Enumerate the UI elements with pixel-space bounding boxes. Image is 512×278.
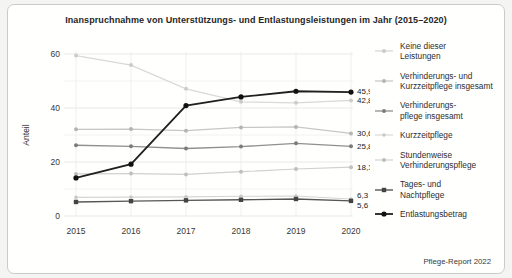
legend-item: Kurzzeitpflege <box>374 130 502 140</box>
legend-item: Tages- undNachtpflege <box>374 179 502 200</box>
data-point <box>294 101 298 105</box>
data-point <box>239 194 243 198</box>
data-point <box>128 162 133 167</box>
data-point <box>129 195 133 199</box>
legend-item: Verhinderungs-pflege insgesamt <box>374 100 502 121</box>
series-end-value-label: 18,1 <box>357 163 370 172</box>
data-point <box>184 198 188 202</box>
series-end-value-label: 42,8 <box>357 96 370 105</box>
data-point <box>183 103 188 108</box>
data-point <box>349 144 353 148</box>
legend-marker-icon <box>374 46 394 56</box>
y-tick-label: 20 <box>51 157 61 167</box>
data-point <box>184 129 188 133</box>
series-end-value-label: 30,6 <box>357 129 370 138</box>
x-tick-label: 2019 <box>287 226 306 236</box>
series-end-value-label: 25,8 <box>357 142 370 151</box>
legend-label: StundenweiseVerhinderungspflege <box>400 150 476 171</box>
chart-legend: Keine dieserLeistungenVerhinderungs- und… <box>374 41 502 219</box>
y-tick-label: 60 <box>51 49 61 59</box>
data-point <box>184 87 188 91</box>
data-point <box>294 125 298 129</box>
series-line-1 <box>76 127 351 133</box>
data-point <box>184 147 188 151</box>
data-point <box>239 198 243 202</box>
data-point <box>184 195 188 199</box>
data-point <box>129 172 133 176</box>
legend-label: Kurzzeitpflege <box>400 130 453 140</box>
x-tick-label: 2016 <box>122 226 141 236</box>
legend-marker-icon <box>374 185 394 195</box>
x-tick-label: 2020 <box>342 226 361 236</box>
legend-marker-icon <box>374 76 394 86</box>
data-point <box>74 172 78 176</box>
data-point <box>129 63 133 67</box>
data-point <box>294 167 298 171</box>
figure-card: Inanspruchnahme von Unterstützungs- und … <box>7 4 505 274</box>
data-point <box>239 145 243 149</box>
data-point <box>184 172 188 176</box>
data-point <box>129 127 133 131</box>
series-end-value-label: 5,6 <box>357 201 369 210</box>
legend-label: Keine dieserLeistungen <box>400 41 446 62</box>
legend-label: Verhinderungs- undKurzzeitpflege insgesa… <box>400 71 493 92</box>
data-point <box>349 165 353 169</box>
line-chart: 0204060201520162017201820192020Anteil42,… <box>18 33 370 239</box>
data-point <box>129 144 133 148</box>
legend-label: Verhinderungs-pflege insgesamt <box>400 100 463 121</box>
data-point <box>349 98 353 102</box>
data-point <box>129 199 133 203</box>
x-tick-label: 2018 <box>232 226 251 236</box>
data-point <box>74 54 78 58</box>
legend-marker-icon <box>374 209 394 219</box>
data-point <box>238 94 243 99</box>
data-point <box>294 197 298 201</box>
data-point <box>239 125 243 129</box>
legend-label: Tages- undNachtpflege <box>400 179 444 200</box>
data-point <box>293 89 298 94</box>
data-point <box>239 100 243 104</box>
data-point <box>239 170 243 174</box>
x-tick-label: 2017 <box>177 226 196 236</box>
data-point <box>74 196 78 200</box>
series-line-0 <box>76 56 351 103</box>
data-point <box>74 143 78 147</box>
legend-marker-icon <box>374 130 394 140</box>
legend-label: Entlastungsbetrag <box>400 209 467 219</box>
source-label: Pflege-Report 2022 <box>423 257 491 266</box>
legend-item: StundenweiseVerhinderungspflege <box>374 150 502 171</box>
series-end-value-label: 6,3 <box>357 191 369 200</box>
data-point <box>349 131 353 135</box>
legend-marker-icon <box>374 155 394 165</box>
series-line-3 <box>76 196 351 199</box>
data-point <box>74 127 78 131</box>
legend-item: Verhinderungs- undKurzzeitpflege insgesa… <box>374 71 502 92</box>
data-point <box>74 200 78 204</box>
series-line-2 <box>76 143 351 148</box>
series-line-5 <box>76 199 351 202</box>
data-point <box>348 89 353 94</box>
legend-item: Keine dieserLeistungen <box>374 41 502 62</box>
data-point <box>73 175 78 180</box>
y-tick-label: 0 <box>55 211 60 221</box>
legend-marker-icon <box>374 106 394 116</box>
data-point <box>294 141 298 145</box>
legend-item: Entlastungsbetrag <box>374 209 502 219</box>
series-end-value-label: 45,9 <box>357 87 370 96</box>
data-point <box>349 199 353 203</box>
y-tick-label: 40 <box>51 103 61 113</box>
x-tick-label: 2015 <box>67 226 86 236</box>
y-axis-label: Anteil <box>21 124 31 145</box>
chart-title: Inanspruchnahme von Unterstützungs- und … <box>8 15 504 25</box>
